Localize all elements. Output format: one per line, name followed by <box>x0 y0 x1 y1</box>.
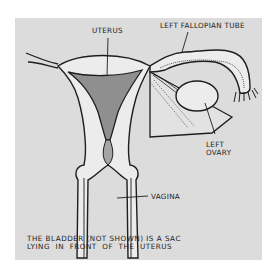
ovary <box>176 81 218 111</box>
label-left-ovary-line2: OVARY <box>206 149 231 157</box>
label-vagina: VAGINA <box>151 193 180 201</box>
fallopian-tube-leader <box>182 32 188 52</box>
label-uterus: UTERUS <box>92 27 123 35</box>
cervical-canal <box>103 140 113 165</box>
caption-line2: LYING IN FRONT OF THE UTERUS <box>27 243 172 251</box>
label-left-fallopian-tube: LEFT FALLOPIAN TUBE <box>160 22 245 30</box>
right-tube <box>26 53 58 68</box>
